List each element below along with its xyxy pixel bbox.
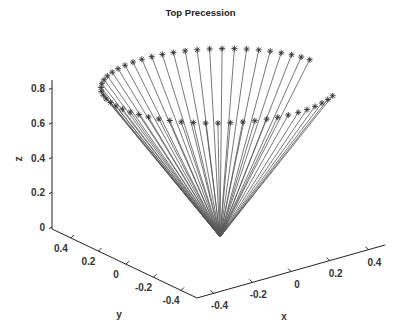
ray-line (101, 87, 220, 237)
asterisk-marker (264, 116, 270, 122)
z-axis-label: z (13, 157, 24, 162)
asterisk-marker (219, 46, 225, 52)
z-tick-label: 0.2 (31, 187, 45, 198)
asterisk-marker (278, 50, 284, 56)
y-axis-label: y (116, 309, 122, 320)
y-tick (181, 287, 184, 290)
ray-line (133, 62, 220, 237)
plot-3d: 00.20.40.60.8 0.40.20-0.2-0.4 -0.4-0.200… (0, 0, 401, 336)
z-ticks: 00.20.40.60.8 (31, 83, 52, 233)
z-tick-label: 0.4 (31, 153, 45, 164)
asterisk-marker (167, 118, 173, 124)
y-tick-label: 0 (113, 269, 119, 280)
ray-line (220, 112, 298, 237)
ray-line (142, 59, 220, 237)
asterisk-marker (231, 46, 237, 52)
ray-line (118, 69, 220, 237)
ray-line (220, 106, 315, 237)
x-tick-label: -0.4 (211, 300, 229, 311)
ray-line (220, 55, 292, 237)
asterisk-marker (319, 100, 325, 106)
asterisk-marker (109, 69, 115, 75)
ray-line (220, 53, 281, 237)
asterisk-marker (203, 120, 209, 126)
z-tick-label: 0 (39, 222, 45, 233)
x-tick (249, 279, 252, 282)
x-axis-label: x (281, 311, 287, 322)
asterisk-marker (130, 59, 136, 65)
ray-line (104, 80, 220, 237)
x-tick-label: -0.2 (250, 289, 268, 300)
x-tick (288, 269, 291, 272)
asterisk-marker (295, 109, 301, 115)
asterisk-marker (307, 57, 313, 63)
asterisk-marker (149, 54, 155, 60)
asterisk-marker (240, 119, 246, 125)
asterisk-marker (227, 120, 233, 126)
ray-line (125, 65, 220, 237)
y-tick-label: 0.2 (81, 256, 95, 267)
asterisk-marker (108, 100, 114, 106)
x-tick (327, 258, 330, 261)
y-axis-line (52, 229, 197, 298)
asterisk-marker (289, 52, 295, 58)
x-ticks: -0.4-0.200.20.4 (211, 247, 382, 312)
ray-line (220, 57, 301, 237)
asterisk-marker (159, 51, 165, 57)
z-tick-label: 0.6 (31, 118, 45, 129)
asterisk-marker (113, 103, 119, 109)
x-tick (365, 247, 368, 250)
x-tick-label: 0.2 (329, 268, 343, 279)
ray-line (220, 51, 270, 237)
asterisk-marker (182, 48, 188, 54)
ray-line (152, 57, 220, 237)
asterisk-marker (330, 93, 336, 99)
ray-line (112, 72, 220, 237)
y-tick (154, 274, 157, 277)
x-tick-label: 0 (294, 279, 300, 290)
asterisk-marker (170, 50, 176, 56)
x-tick (211, 290, 214, 293)
asterisk-marker (139, 56, 145, 62)
asterisk-marker (136, 112, 142, 118)
asterisk-marker (103, 96, 109, 102)
y-tick (126, 261, 129, 264)
asterisk-marker (119, 106, 125, 112)
asterisk-marker (285, 112, 291, 118)
y-tick-label: -0.2 (135, 282, 153, 293)
asterisk-marker (312, 103, 318, 109)
ray-line (220, 60, 310, 237)
asterisk-marker (304, 107, 310, 113)
precession-rays (101, 49, 333, 237)
y-tick (71, 235, 74, 238)
asterisk-marker (156, 116, 162, 122)
asterisk-marker (194, 47, 200, 53)
asterisk-marker (252, 118, 258, 124)
asterisk-marker (145, 114, 151, 120)
y-tick-label: -0.4 (162, 295, 180, 306)
z-tick-label: 0.8 (31, 83, 45, 94)
asterisk-marker (215, 120, 221, 126)
y-tick-label: 0.4 (54, 243, 68, 254)
asterisk-marker (115, 66, 121, 72)
asterisk-marker (256, 47, 262, 53)
y-tick (98, 248, 101, 251)
asterisk-marker (190, 120, 196, 126)
asterisk-marker (104, 73, 110, 79)
y-ticks: 0.40.20-0.2-0.4 (54, 235, 184, 306)
asterisk-marker (267, 48, 273, 54)
asterisk-marker (244, 46, 250, 52)
asterisk-marker (298, 54, 304, 60)
asterisk-marker (122, 62, 128, 68)
x-tick-label: 0.4 (368, 257, 382, 268)
asterisk-marker (127, 109, 133, 115)
asterisk-marker (325, 96, 331, 102)
asterisk-marker (207, 46, 213, 52)
